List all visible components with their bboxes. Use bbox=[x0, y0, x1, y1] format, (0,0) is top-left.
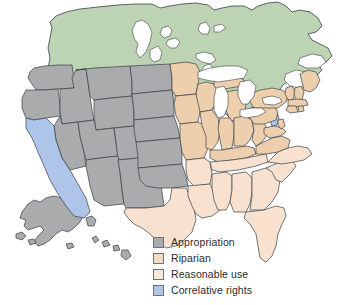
legend-swatch-reasonable-use bbox=[153, 269, 164, 280]
map-legend: Appropriation Riparian Reasonable use Co… bbox=[153, 234, 333, 298]
great-bear-lake bbox=[160, 26, 172, 38]
legend-item-riparian: Riparian bbox=[153, 250, 333, 266]
legend-label-appropriation: Appropriation bbox=[171, 237, 235, 248]
state-rhode-island bbox=[298, 106, 304, 112]
state-wyoming bbox=[94, 96, 134, 130]
state-north-dakota bbox=[130, 64, 172, 94]
state-kansas bbox=[136, 138, 182, 168]
state-iowa bbox=[174, 94, 200, 124]
state-alabama bbox=[230, 172, 252, 212]
legend-item-correlative-rights: Correlative rights bbox=[153, 282, 333, 298]
water-rights-map: Appropriation Riparian Reasonable use Co… bbox=[0, 0, 338, 305]
legend-label-riparian: Riparian bbox=[171, 253, 211, 264]
legend-label-correlative-rights: Correlative rights bbox=[171, 285, 252, 296]
legend-item-appropriation: Appropriation bbox=[153, 234, 333, 250]
state-arkansas bbox=[186, 158, 212, 186]
state-south-dakota bbox=[132, 90, 174, 120]
state-minnesota bbox=[170, 62, 200, 96]
state-oklahoma bbox=[138, 164, 188, 188]
legend-item-reasonable-use: Reasonable use bbox=[153, 266, 333, 282]
legend-swatch-appropriation bbox=[153, 237, 164, 248]
state-washington bbox=[28, 65, 74, 90]
state-oregon bbox=[22, 89, 60, 120]
state-nebraska bbox=[134, 116, 180, 142]
legend-swatch-riparian bbox=[153, 253, 164, 264]
legend-label-reasonable-use: Reasonable use bbox=[171, 269, 248, 280]
legend-swatch-correlative-rights bbox=[153, 285, 164, 296]
